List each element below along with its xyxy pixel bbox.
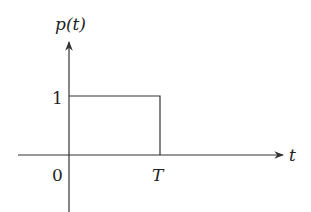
pulse-end-label: T xyxy=(152,165,165,185)
pulse-diagram: p(t) 1 0 T t xyxy=(0,0,311,212)
y-axis-label: p(t) xyxy=(55,14,86,34)
origin-label: 0 xyxy=(52,165,63,185)
pulse-signal xyxy=(69,96,160,155)
pulse-height-label: 1 xyxy=(52,88,63,108)
x-axis-label: t xyxy=(289,145,296,165)
